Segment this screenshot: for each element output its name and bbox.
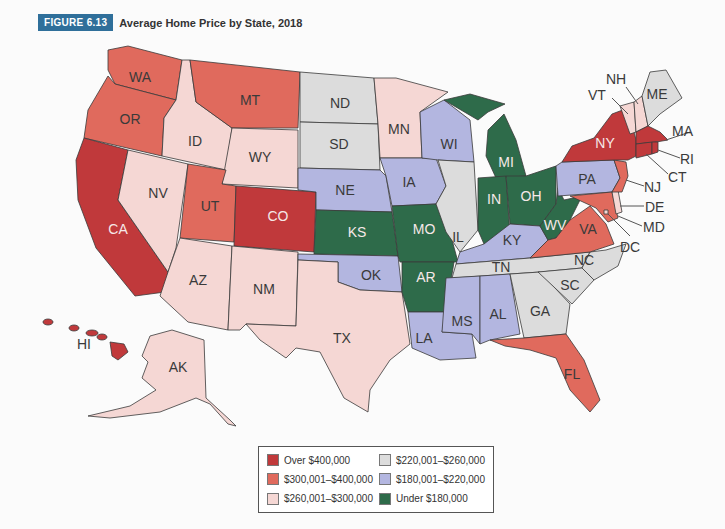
legend-label: $180,001–$220,000 xyxy=(396,474,485,485)
label-ks: KS xyxy=(348,224,367,240)
legend-item-180k-220k: $180,001–$220,000 xyxy=(379,472,485,486)
label-tn: TN xyxy=(492,259,511,275)
leader-nj xyxy=(626,180,644,186)
label-mo: MO xyxy=(413,221,436,237)
label-ar: AR xyxy=(416,269,435,285)
label-mi: MI xyxy=(498,154,514,170)
legend-item-220k-260k: $220,001–$260,000 xyxy=(379,453,485,467)
legend-item-over-400k: Over $400,000 xyxy=(267,453,373,467)
legend-item-300k-400k: $300,001–$400,000 xyxy=(267,472,373,486)
label-hi: HI xyxy=(77,336,91,352)
label-de: DE xyxy=(645,199,664,215)
label-nh: NH xyxy=(606,71,626,87)
label-sc: SC xyxy=(560,277,579,293)
leader-nh xyxy=(626,87,638,104)
label-id: ID xyxy=(188,133,202,149)
legend-swatch xyxy=(379,493,391,505)
label-ct: CT xyxy=(668,169,687,185)
legend-label: $260,001–$300,000 xyxy=(284,493,373,504)
label-ia: IA xyxy=(402,174,416,190)
leader-ct xyxy=(646,154,668,174)
legend-swatch xyxy=(267,454,279,466)
legend-item-260k-300k: $260,001–$300,000 xyxy=(267,492,373,506)
leader-ri xyxy=(658,150,680,158)
label-fl: FL xyxy=(564,366,581,382)
state-ct xyxy=(636,142,652,158)
label-pa: PA xyxy=(578,171,596,187)
legend-label: Under $180,000 xyxy=(396,493,468,504)
state-fl xyxy=(490,334,600,412)
label-ok: OK xyxy=(361,267,382,283)
label-wa: WA xyxy=(129,69,152,85)
label-ut: UT xyxy=(201,198,220,214)
label-sd: SD xyxy=(329,136,348,152)
leader-dc xyxy=(608,214,630,236)
label-nc: NC xyxy=(574,252,594,268)
label-ri: RI xyxy=(680,151,694,167)
label-ky: KY xyxy=(503,232,522,248)
state-ri xyxy=(652,142,658,154)
leader-md xyxy=(618,216,642,226)
label-mn: MN xyxy=(388,121,410,137)
label-or: OR xyxy=(120,111,141,127)
label-md: MD xyxy=(643,219,665,235)
legend: Over $400,000 $220,001–$260,000 $300,001… xyxy=(258,446,494,513)
label-wy: WY xyxy=(249,149,272,165)
label-nm: NM xyxy=(253,281,275,297)
label-ny: NY xyxy=(595,135,615,151)
label-ga: GA xyxy=(530,303,551,319)
label-nj: NJ xyxy=(644,179,661,195)
label-oh: OH xyxy=(521,188,542,204)
label-ms: MS xyxy=(452,313,473,329)
legend-label: Over $400,000 xyxy=(284,455,350,466)
label-tx: TX xyxy=(333,330,352,346)
label-ne: NE xyxy=(335,182,354,198)
label-al: AL xyxy=(489,306,506,322)
label-me: ME xyxy=(647,86,668,102)
label-wv: WV xyxy=(544,217,567,233)
label-co: CO xyxy=(268,208,289,224)
legend-item-under-180k: Under $180,000 xyxy=(379,492,485,506)
legend-swatch xyxy=(379,454,391,466)
label-nd: ND xyxy=(330,95,350,111)
state-dc xyxy=(604,210,608,214)
legend-label: $220,001–$260,000 xyxy=(396,455,485,466)
legend-swatch xyxy=(379,473,391,485)
legend-label: $300,001–$400,000 xyxy=(284,474,373,485)
label-dc: DC xyxy=(620,239,640,255)
label-ma: MA xyxy=(672,123,694,139)
legend-swatch xyxy=(267,473,279,485)
label-vt: VT xyxy=(588,87,606,103)
label-wi: WI xyxy=(440,136,457,152)
label-ca: CA xyxy=(108,221,128,237)
legend-swatch xyxy=(267,493,279,505)
label-va: VA xyxy=(579,221,597,237)
label-la: LA xyxy=(415,330,433,346)
label-in: IN xyxy=(487,191,501,207)
label-mt: MT xyxy=(240,92,261,108)
label-il: IL xyxy=(452,229,464,245)
label-ak: AK xyxy=(169,359,188,375)
label-nv: NV xyxy=(148,185,168,201)
label-az: AZ xyxy=(189,272,207,288)
